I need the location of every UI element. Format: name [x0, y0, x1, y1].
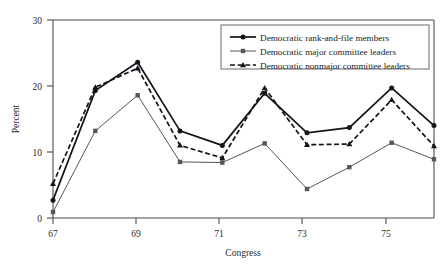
x-axis-ticks: 67 69 71 73 75: [48, 218, 391, 239]
series-2: [50, 65, 437, 186]
data-point-marker: [51, 198, 56, 203]
data-point-marker: [305, 130, 310, 135]
y-axis-title: Percent: [11, 104, 21, 133]
data-point-marker: [262, 91, 267, 96]
series-layer: [50, 60, 437, 215]
series-0: [51, 60, 437, 203]
data-point-marker: [93, 88, 98, 93]
y-tick-label-20: 20: [33, 82, 43, 92]
data-point-marker: [220, 160, 224, 164]
data-point-marker: [178, 160, 182, 164]
data-point-marker: [305, 187, 309, 191]
data-point-marker: [431, 143, 437, 148]
series-line: [53, 95, 434, 212]
y-tick-label-30: 30: [33, 16, 43, 26]
series-line: [53, 68, 434, 183]
series-line: [53, 62, 434, 200]
x-axis-title: Congress: [225, 248, 261, 258]
data-point-marker: [220, 143, 225, 148]
y-tick-label-10: 10: [33, 148, 43, 158]
data-point-marker: [389, 97, 395, 102]
data-point-marker: [178, 128, 183, 133]
data-point-marker: [347, 165, 351, 169]
data-point-marker: [93, 129, 97, 133]
chart-figure: 0 10 20 30 Percent 67 69 71 73 75 Congre…: [0, 0, 446, 270]
line-chart-svg: 0 10 20 30 Percent 67 69 71 73 75 Congre…: [0, 0, 446, 270]
data-point-marker: [241, 35, 246, 40]
data-point-marker: [389, 85, 394, 90]
x-tick-label-75: 75: [381, 229, 391, 239]
data-point-marker: [262, 141, 266, 145]
data-point-marker: [241, 49, 245, 53]
y-axis-ticks: 0 10 20 30: [33, 16, 54, 224]
x-tick-label-71: 71: [214, 229, 224, 239]
chart-legend: Democratic rank-and-file members Democra…: [221, 25, 429, 71]
legend-label-2: Democratic nonmajor committee leaders: [260, 61, 410, 71]
data-point-marker: [432, 157, 436, 161]
legend-label-1: Democratic major committee leaders: [260, 47, 396, 57]
data-point-marker: [347, 125, 352, 130]
data-point-marker: [50, 181, 56, 186]
y-tick-label-0: 0: [37, 214, 42, 224]
legend-label-0: Democratic rank-and-file members: [260, 33, 389, 43]
data-point-marker: [389, 141, 393, 145]
x-tick-label-73: 73: [297, 229, 307, 239]
data-point-marker: [432, 123, 437, 128]
data-point-marker: [135, 93, 139, 97]
x-tick-label-67: 67: [48, 229, 58, 239]
data-point-marker: [135, 60, 140, 65]
data-point-marker: [262, 85, 268, 90]
x-tick-label-69: 69: [131, 229, 141, 239]
series-1: [51, 93, 436, 214]
data-point-marker: [51, 210, 55, 214]
